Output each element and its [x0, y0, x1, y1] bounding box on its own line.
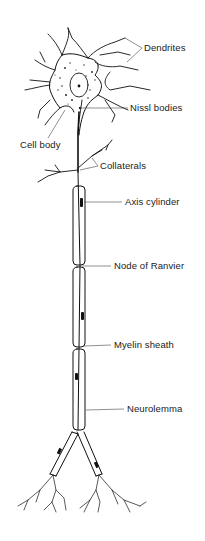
label-myelin-sheath: Myelin sheath: [114, 339, 174, 350]
label-node-of-ranvier: Node of Ranvier: [114, 260, 184, 271]
label-nissl-bodies: Nissl bodies: [130, 102, 182, 113]
label-neurolemma: Neurolemma: [127, 403, 182, 414]
leader-lines: [48, 38, 142, 410]
terminal-branches: [18, 432, 146, 512]
label-collaterals: Collaterals: [100, 160, 146, 171]
label-dendrites: Dendrites: [144, 42, 186, 53]
label-axis-cylinder: Axis cylinder: [125, 196, 180, 207]
label-cell-body: Cell body: [20, 139, 61, 150]
cell-body-shape: [25, 28, 150, 135]
